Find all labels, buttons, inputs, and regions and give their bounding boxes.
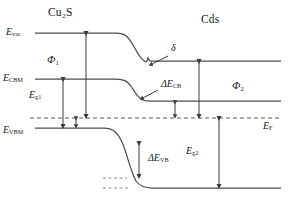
label-e-cbm: ECBM [3,73,23,84]
label-eg2: Eg2 [186,146,198,157]
figure-caption [6,199,286,211]
delta-ecb-leader-arrow [141,90,158,99]
label-phi2: Φ2 [232,80,244,92]
label-delta-evb: ΔEVB [148,153,169,164]
label-e-fermi: EF [263,121,273,132]
label-eg1: Eg1 [29,90,41,101]
material-label-right: Cds [201,14,220,26]
label-phi1: Φ1 [47,54,59,66]
label-e-vbm: EVBM [3,125,23,136]
band-diagram-figure: Cu₂S Cds Evac ECBM EVBM EF Φ1 Φ2 Eg1 Eg2… [0,0,291,211]
label-e-vac: Evac [6,27,21,38]
label-delta-ecb: ΔECB [161,79,181,90]
vacuum-level-curve [35,33,281,62]
material-label-left: Cu₂S [48,7,73,19]
band-diagram-svg [0,0,291,211]
label-delta-spike: δ [171,43,176,53]
